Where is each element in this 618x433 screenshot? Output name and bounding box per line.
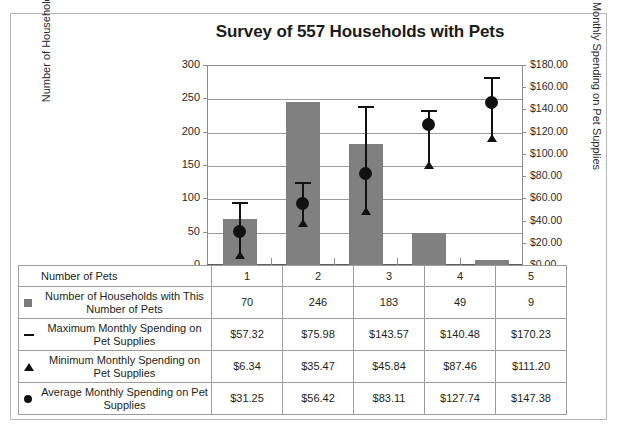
y-axis-left-tick-label: 50 <box>160 225 200 237</box>
y-axis-right-tick-label: $40.00 <box>530 214 586 226</box>
table-cell: $35.47 <box>283 351 354 383</box>
y-axis-right-tick-label: $140.00 <box>530 102 586 114</box>
y-axis-title-right: Monthly Spending on Pet Supplies <box>591 1 603 171</box>
table-row-label: Number of Households with This Number of… <box>19 287 212 319</box>
table-cell: 70 <box>212 287 283 319</box>
maximum-marker <box>295 182 311 184</box>
bar <box>412 233 446 266</box>
y-axis-left-tick-label: 100 <box>160 191 200 203</box>
y-axis-left-tick-label: 250 <box>160 91 200 103</box>
table-cell: $6.34 <box>212 351 283 383</box>
maximum-marker <box>358 106 374 108</box>
error-bar-stem <box>365 106 367 215</box>
table-row-label: Minimum Monthly Spending on Pet Supplies <box>19 351 212 383</box>
table-row: Minimum Monthly Spending on Pet Supplies… <box>19 351 567 383</box>
chart-title: Survey of 557 Households with Pets <box>140 22 580 42</box>
y-axis-left-tick-label: 150 <box>160 158 200 170</box>
gridline <box>208 99 522 100</box>
table-header-cell: 3 <box>354 266 425 287</box>
y-axis-title-left: Number of Households <box>40 0 52 126</box>
y-axis-right-tick-label: $80.00 <box>530 169 586 181</box>
legend-circle-icon <box>24 395 32 403</box>
table-cell: $87.46 <box>425 351 496 383</box>
table-cell: $143.57 <box>354 319 425 351</box>
table-cell: $127.74 <box>425 383 496 415</box>
chart-screenshot: Survey of 557 Households with Pets Numbe… <box>0 0 618 433</box>
average-marker <box>485 96 498 109</box>
table-cell: 183 <box>354 287 425 319</box>
maximum-marker <box>484 77 500 79</box>
table-header-cell: 2 <box>283 266 354 287</box>
y-axis-left-tick-label: 200 <box>160 125 200 137</box>
plot-area <box>207 65 522 265</box>
table-row-label-text: Number of Households with This Number of… <box>23 290 208 315</box>
y-axis-right-tick-label: $160.00 <box>530 80 586 92</box>
average-marker <box>422 118 435 131</box>
table-cell: $56.42 <box>283 383 354 415</box>
table-header-label: Number of Pets <box>19 266 212 287</box>
table-cell: $147.38 <box>496 383 567 415</box>
error-bar-stem <box>491 77 493 143</box>
y-axis-left-tick-label: 300 <box>160 58 200 70</box>
table-row: Number of Households with This Number of… <box>19 287 567 319</box>
maximum-marker <box>421 110 437 112</box>
average-marker <box>296 197 309 210</box>
table-cell: $31.25 <box>212 383 283 415</box>
minimum-marker <box>235 251 245 259</box>
legend-square-icon <box>24 299 32 307</box>
minimum-marker <box>361 207 371 215</box>
table-row: Maximum Monthly Spending on Pet Supplies… <box>19 319 567 351</box>
minimum-marker <box>298 219 308 227</box>
table-cell: 246 <box>283 287 354 319</box>
legend-dash-icon <box>24 334 34 336</box>
table-row-label-text: Minimum Monthly Spending on Pet Supplies <box>23 354 208 379</box>
table-cell: $57.32 <box>212 319 283 351</box>
maximum-marker <box>232 202 248 204</box>
y-axis-right-tick-label: $60.00 <box>530 191 586 203</box>
table-cell: $140.48 <box>425 319 496 351</box>
table-cell: 9 <box>496 287 567 319</box>
table-row: Average Monthly Spending on Pet Supplies… <box>19 383 567 415</box>
y-axis-right-tick-label: $120.00 <box>530 125 586 137</box>
table-cell: $45.84 <box>354 351 425 383</box>
y-axis-right-tick-label: $100.00 <box>530 147 586 159</box>
table-header-cell: 4 <box>425 266 496 287</box>
table-header-row: Number of Pets12345 <box>19 266 567 287</box>
table-cell: 49 <box>425 287 496 319</box>
table-cell: $111.20 <box>496 351 567 383</box>
y-axis-right-line <box>522 65 523 266</box>
table-cell: $75.98 <box>283 319 354 351</box>
y-axis-right-tick-label: $20.00 <box>530 236 586 248</box>
table-cell: $83.11 <box>354 383 425 415</box>
table-header-cell: 1 <box>212 266 283 287</box>
table-header-cell: 5 <box>496 266 567 287</box>
minimum-marker <box>487 134 497 142</box>
table-cell: $170.23 <box>496 319 567 351</box>
legend-triangle-icon <box>24 363 34 371</box>
table-row-label-text: Maximum Monthly Spending on Pet Supplies <box>23 322 208 347</box>
minimum-marker <box>424 161 434 169</box>
table-row-label: Maximum Monthly Spending on Pet Supplies <box>19 319 212 351</box>
average-marker <box>233 225 246 238</box>
data-table: Number of Pets12345Number of Households … <box>18 265 567 415</box>
table-row-label: Average Monthly Spending on Pet Supplies <box>19 383 212 415</box>
y-axis-right-tick-label: $180.00 <box>530 58 586 70</box>
table-row-label-text: Average Monthly Spending on Pet Supplies <box>23 386 208 411</box>
